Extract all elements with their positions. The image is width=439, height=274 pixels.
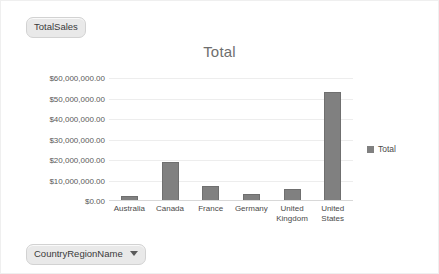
x-axis-tick-line: Canada — [150, 204, 191, 214]
bar-united-states[interactable] — [324, 92, 341, 201]
chart-legend: Total — [367, 144, 396, 154]
field-pill-axis-label: CountryRegionName — [34, 249, 123, 259]
x-axis-tick-label: Germany — [231, 204, 272, 224]
x-axis-tick-line: Germany — [231, 204, 272, 214]
chevron-down-icon[interactable] — [130, 251, 138, 256]
y-axis-labels: $60,000,000.00$50,000,000.00$40,000,000.… — [19, 78, 105, 201]
bar-slot — [312, 78, 353, 201]
field-pill-measure-label: TotalSales — [34, 22, 78, 32]
x-axis-tick-label: France — [190, 204, 231, 224]
x-axis-tick-line: States — [312, 214, 353, 224]
x-axis-tick-line: Australia — [109, 204, 150, 214]
y-axis-tick-label: $40,000,000.00 — [49, 115, 105, 124]
axis-baseline — [109, 200, 353, 201]
report-chart-panel: TotalSales Total $60,000,000.00$50,000,0… — [0, 0, 439, 274]
bar-series-total — [109, 78, 353, 201]
x-axis-tick-label: UnitedKingdom — [272, 204, 313, 224]
x-axis-tick-label: UnitedStates — [312, 204, 353, 224]
x-axis-tick-line: Kingdom — [272, 214, 313, 224]
bar-slot — [150, 78, 191, 201]
x-axis-tick-line: United — [272, 204, 313, 214]
y-axis-tick-label: $60,000,000.00 — [49, 74, 105, 83]
field-pill-countryregionname[interactable]: CountryRegionName — [26, 244, 146, 265]
field-pill-totalsales[interactable]: TotalSales — [26, 17, 86, 38]
x-axis-tick-label: Canada — [150, 204, 191, 224]
bar-canada[interactable] — [162, 162, 179, 201]
x-axis-labels: AustraliaCanadaFranceGermanyUnitedKingdo… — [109, 204, 353, 224]
bar-slot — [272, 78, 313, 201]
y-axis-tick-label: $0.00 — [85, 197, 105, 206]
y-axis-tick-label: $50,000,000.00 — [49, 94, 105, 103]
bar-france[interactable] — [202, 186, 219, 201]
legend-swatch-total — [367, 146, 374, 153]
bar-slot — [109, 78, 150, 201]
bar-slot — [190, 78, 231, 201]
x-axis-tick-line: France — [190, 204, 231, 214]
x-axis-tick-label: Australia — [109, 204, 150, 224]
chart-title: Total — [1, 43, 438, 60]
y-axis-tick-label: $20,000,000.00 — [49, 156, 105, 165]
y-axis-tick-label: $30,000,000.00 — [49, 135, 105, 144]
x-axis-tick-line: United — [312, 204, 353, 214]
bar-slot — [231, 78, 272, 201]
legend-label-total: Total — [378, 144, 396, 154]
y-axis-tick-label: $10,000,000.00 — [49, 176, 105, 185]
plot-area — [109, 78, 353, 201]
